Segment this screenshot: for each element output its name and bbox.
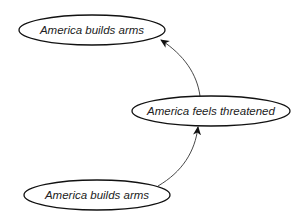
edge-feels-threatened-to-builds-arms bbox=[161, 40, 200, 96]
node-america-builds-arms-bottom: America builds arms bbox=[24, 180, 170, 210]
node-label: America feels threatened bbox=[146, 105, 275, 117]
node-america-feels-threatened: America feels threatened bbox=[132, 96, 290, 126]
edge-builds-arms-to-feels-threatened bbox=[158, 127, 198, 186]
node-america-builds-arms-top: America builds arms bbox=[19, 15, 165, 45]
node-label: America builds arms bbox=[39, 24, 144, 36]
diagram-canvas: America builds arms America feels threat… bbox=[0, 0, 303, 221]
node-label: America builds arms bbox=[44, 189, 149, 201]
